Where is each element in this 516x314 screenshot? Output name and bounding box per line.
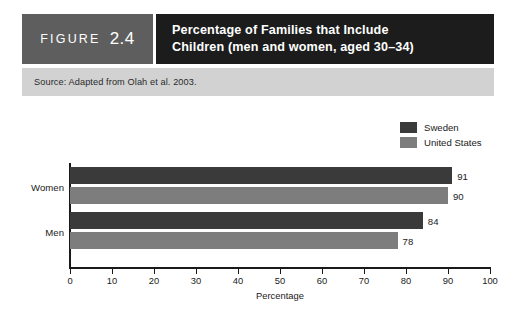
x-axis-tick — [322, 268, 323, 274]
x-axis-tick — [406, 268, 407, 274]
x-axis-tick — [490, 268, 491, 274]
x-axis-tick — [196, 268, 197, 274]
bar-men-sweden — [70, 212, 423, 229]
x-axis-tick-label: 70 — [359, 275, 369, 286]
x-axis-tick-label: 90 — [443, 275, 453, 286]
bar-men-united-states — [70, 232, 398, 249]
x-axis-tick — [112, 268, 113, 274]
x-axis-tick-label: 40 — [233, 275, 243, 286]
x-axis-tick-label: 60 — [317, 275, 327, 286]
bar-women-sweden — [70, 167, 452, 184]
bar-value-label: 90 — [453, 191, 464, 202]
x-axis-tick-label: 100 — [482, 275, 498, 286]
x-axis-tick-label: 50 — [275, 275, 285, 286]
bar-value-label: 78 — [403, 236, 414, 247]
bar-value-label: 91 — [457, 171, 468, 182]
x-axis-tick — [364, 268, 365, 274]
bar-women-united-states — [70, 187, 448, 204]
x-axis-tick — [70, 268, 71, 274]
x-axis-tick — [280, 268, 281, 274]
chart-plot-area: Percentage 01020304050607080901009190Wom… — [0, 0, 516, 314]
x-axis-tick — [238, 268, 239, 274]
x-axis-tick-label: 80 — [401, 275, 411, 286]
x-axis-tick-label: 0 — [67, 275, 72, 286]
x-axis-title: Percentage — [256, 290, 304, 301]
x-axis-tick — [154, 268, 155, 274]
category-label-men: Men — [0, 227, 64, 238]
x-axis-tick-label: 30 — [191, 275, 201, 286]
bar-value-label: 84 — [428, 216, 439, 227]
x-axis-tick-label: 20 — [149, 275, 159, 286]
category-label-women: Women — [0, 182, 64, 193]
x-axis-tick-label: 10 — [107, 275, 117, 286]
x-axis-tick — [448, 268, 449, 274]
